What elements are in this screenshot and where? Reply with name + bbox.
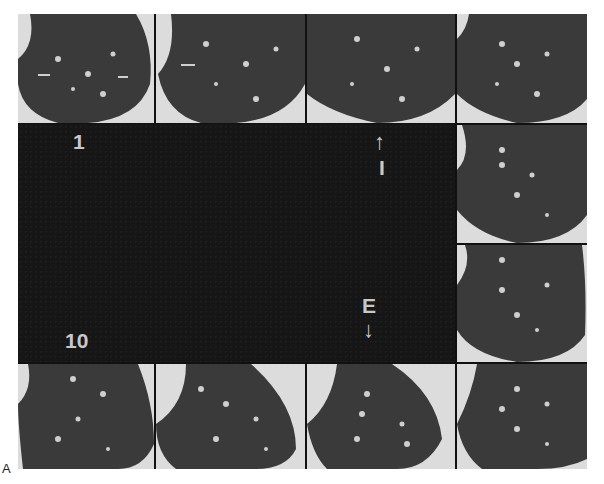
- arrow-down-icon: ↓: [363, 317, 374, 343]
- slice-label-1: 1: [73, 130, 85, 154]
- ct-slice-5: [457, 125, 587, 243]
- ct-slice-10: [457, 364, 587, 469]
- ct-slice-8: [156, 364, 305, 469]
- ct-slice-2: [156, 14, 305, 123]
- inspiration-label: I: [379, 156, 385, 180]
- ct-slice-7: [18, 364, 154, 469]
- slice-label-10: 10: [65, 329, 88, 353]
- ct-slice-3: [307, 14, 455, 123]
- ct-slice-grid: 1 10 ↑ I E ↓: [18, 14, 587, 469]
- arrow-up-icon: ↑: [374, 129, 385, 155]
- expiration-label: E: [362, 294, 376, 318]
- panel-letter: A: [2, 461, 11, 476]
- ct-slice-1: [18, 14, 154, 123]
- ct-slice-6: [457, 245, 587, 362]
- ct-slice-9: [307, 364, 455, 469]
- center-dark-panel: 1 10 ↑ I E ↓: [18, 124, 455, 362]
- ct-slice-4: [457, 14, 587, 123]
